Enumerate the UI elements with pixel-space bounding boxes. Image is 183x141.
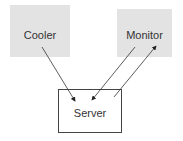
edge-server-to-monitor bbox=[114, 46, 156, 97]
edges-layer bbox=[0, 0, 183, 141]
edge-cooler-to-server bbox=[42, 47, 75, 101]
edge-monitor-to-server bbox=[92, 47, 135, 100]
